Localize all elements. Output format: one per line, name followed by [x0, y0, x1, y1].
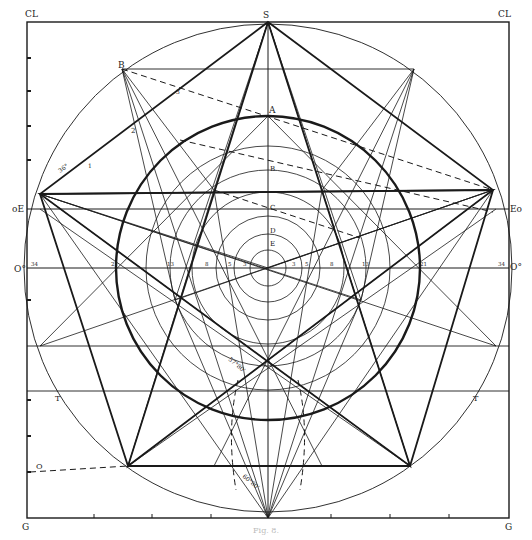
label-c: C — [270, 204, 275, 212]
label-right-o: O° — [510, 262, 522, 272]
label-o-bottom: O — [36, 462, 43, 471]
label-n1: 1 — [88, 162, 92, 169]
scale-left-5: 5 — [228, 261, 232, 267]
fan-lines-bottom — [40, 69, 493, 518]
label-e: E — [270, 240, 275, 248]
label-right-e: Eo — [510, 204, 522, 214]
label-b-outer: B — [118, 60, 125, 70]
label-left-e: oE — [12, 204, 24, 214]
label-left-o: O° — [14, 264, 26, 274]
dashed-lines — [30, 69, 493, 490]
scale-left-3: 3 — [243, 261, 247, 267]
scale-right-13: 13 — [362, 261, 369, 267]
scale-right-3: 3 — [292, 261, 296, 267]
label-t-left: T — [55, 394, 61, 403]
scale-right-5: 5 — [305, 261, 309, 267]
scale-right-34: 34 — [498, 261, 505, 267]
scale-right-21: 21 — [420, 261, 427, 267]
label-angle-bottom-1: 57°80' — [227, 355, 247, 373]
label-b: B — [270, 165, 275, 173]
scale-left-21: 21 — [111, 261, 118, 267]
label-t-right: T — [473, 394, 479, 403]
geometric-construction-drawing: CL CL G G S oE Eo O° O° B A B C D E T T … — [0, 0, 532, 540]
figure-caption: Fig. 8. — [0, 526, 532, 535]
label-angle-36: 36° — [57, 162, 70, 174]
scale-right-8: 8 — [330, 261, 334, 267]
scale-left-34: 34 — [31, 261, 38, 267]
label-angle-bottom-2: 60°80' — [241, 472, 261, 490]
label-corner-tr: CL — [498, 9, 511, 19]
scale-left-8: 8 — [205, 261, 209, 267]
label-n2: 2 — [131, 127, 135, 135]
label-corner-tl: CL — [25, 9, 38, 19]
label-n3: 3 — [176, 88, 180, 95]
label-d: D — [270, 227, 276, 235]
label-a: A — [268, 105, 276, 115]
label-top-s: S — [263, 10, 269, 20]
scale-left-13: 13 — [167, 261, 174, 267]
